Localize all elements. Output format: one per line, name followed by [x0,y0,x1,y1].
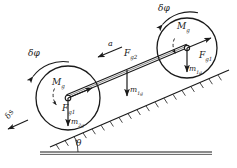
weight-m1g-mid-subscript: 1g [137,91,143,96]
moment-left-label: Mg [52,78,65,89]
force-g1-right-label: Fg1 [199,51,212,62]
diagram-vector-layer [0,0,237,168]
left-wheel-moment-arc [53,89,56,106]
force-g1-left-subscript: g1 [68,109,75,115]
weight-m1g-mid-label: m1g [130,86,143,96]
weight-m1g-right-label: m1g [189,65,202,75]
delta-phi-right-label: δφ [158,4,170,13]
moment-right-label: Mg [177,22,190,33]
weight-m1g-right-subscript: 1g [196,70,202,75]
moment-right-subscript: g [186,27,190,33]
force-g1-right-subscript: g1 [205,56,212,62]
moment-right-symbol: M [177,21,186,31]
force-g2-mid-label: Fg2 [124,49,137,60]
delta-s-arrow [8,120,28,129]
moment-left-subscript: g [61,83,65,89]
delta-phi-left-label: δφ [28,49,40,58]
force-g1-right-arrow [187,38,211,48]
physics-diagram-canvas: δφ δφ δs Mg Mg Fg1 Fg1 Fg2 a m1g m1g m2g… [0,0,237,168]
right-wheel-moment-arc [173,39,176,54]
ground-line [40,152,212,154]
acceleration-label: a [108,40,113,48]
force-g2-mid-subscript: g2 [130,54,137,60]
moment-left-symbol: M [52,77,61,87]
weight-m2g-left-label: m2g [71,118,84,128]
force-g1-left-label: Fg1 [62,104,75,115]
weight-m2g-left-subscript: 2g [78,123,84,128]
theta-angle-label: θ [76,139,81,148]
left-wheel-delta-phi-arc [33,62,69,77]
acceleration-arrow [98,47,122,57]
